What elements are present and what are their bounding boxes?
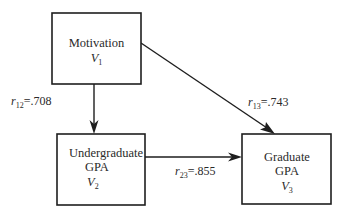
edge-v2-v3 xyxy=(145,153,242,162)
correlation-label-r23: r23=.855 xyxy=(175,164,215,180)
node-label: Undergraduate xyxy=(69,146,143,160)
edge-line xyxy=(141,43,270,130)
edge-v1-v2 xyxy=(90,84,99,134)
node-label: Motivation xyxy=(69,36,125,50)
node-motivation: Motivation V1 xyxy=(52,13,141,84)
node-label: GPA xyxy=(85,160,109,174)
correlation-label-r13: r13=.743 xyxy=(248,95,288,111)
edge-v1-v3 xyxy=(141,43,275,134)
node-graduate-gpa: Graduate GPA V3 xyxy=(242,134,331,204)
path-diagram: Motivation V1 Undergraduate GPA V2 Gradu… xyxy=(0,0,343,219)
node-label: Graduate xyxy=(264,150,310,164)
correlation-label-r12: r12=.708 xyxy=(11,94,51,110)
arrowhead-icon xyxy=(260,122,275,134)
node-label: GPA xyxy=(275,164,299,178)
node-undergraduate-gpa: Undergraduate GPA V2 xyxy=(57,134,145,205)
